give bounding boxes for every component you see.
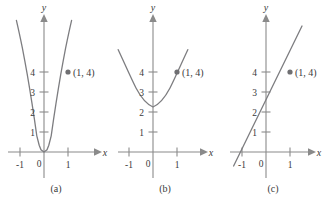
origin-label-b: 0 [146,159,151,169]
x-ticklabel-neg1-b: -1 [125,160,133,170]
x-ticklabel-neg1-c: -1 [238,160,246,170]
graph-panel-a: x y -1 1 0 1 2 3 4 (1, 4) (a) [0,0,112,198]
x-axis-arrowhead-b [200,148,208,155]
y-ticklabel-3-c: 3 [252,88,257,98]
x-axis-arrowhead-c [308,148,316,155]
y-ticklabel-2-c: 2 [252,108,257,118]
x-axis-label-b: x [208,147,214,158]
y-ticklabel-3-b: 3 [139,88,144,98]
y-ticklabel-1-a: 1 [30,128,35,138]
y-ticklabel-1-b: 1 [139,128,144,138]
linear-curve-c [234,26,302,166]
y-ticklabel-4-c: 4 [252,68,257,78]
x-ticklabel-1-a: 1 [66,160,71,170]
y-axis-label-b: y [150,2,156,13]
panel-caption-c: (c) [267,183,278,195]
y-axis-label-a: y [41,2,47,13]
y-ticklabel-1-c: 1 [252,128,257,138]
graph-panel-c: x y -1 1 0 1 2 3 4 (1, 4) (c) [220,0,335,198]
three-graph-figure: x y -1 1 0 1 2 3 4 (1, 4) (a) [0,0,335,198]
x-ticklabel-neg1-a: -1 [16,160,24,170]
point-marker-c [287,69,292,74]
y-axis-arrowhead-c [262,14,269,22]
y-ticklabel-4-a: 4 [30,68,35,78]
x-axis-arrowhead-a [94,148,102,155]
panel-caption-b: (b) [159,183,171,195]
y-axis-arrowhead-a [40,14,47,22]
x-ticklabel-1-c: 1 [288,160,293,170]
origin-label-a: 0 [37,159,42,169]
y-ticklabel-2-b: 2 [139,108,144,118]
x-ticklabel-1-b: 1 [175,160,180,170]
x-axis-label-a: x [102,147,108,158]
y-ticklabel-2-a: 2 [30,108,35,118]
origin-label-c: 0 [259,159,264,169]
point-label-a: (1, 4) [73,67,95,79]
panel-caption-a: (a) [50,183,61,195]
y-axis-label-c: y [263,2,269,13]
y-axis-arrowhead-b [149,14,156,22]
y-ticklabel-4-b: 4 [139,68,144,78]
panel-c-plot: x y -1 1 0 1 2 3 4 (1, 4) (c) [220,0,335,198]
point-marker-b [174,69,179,74]
point-label-c: (1, 4) [295,67,317,79]
panel-b-plot: x y -1 1 0 1 2 3 4 (1, 4) (b) [110,0,222,198]
point-label-b: (1, 4) [182,67,204,79]
graph-panel-b: x y -1 1 0 1 2 3 4 (1, 4) (b) [110,0,222,198]
y-ticklabel-3-a: 3 [30,88,35,98]
point-marker-a [65,69,70,74]
panel-a-plot: x y -1 1 0 1 2 3 4 (1, 4) (a) [0,0,112,198]
x-axis-label-c: x [316,147,322,158]
